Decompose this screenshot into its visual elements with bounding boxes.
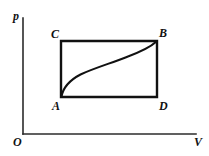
vertex-label-b: B — [159, 27, 167, 39]
pv-diagram-figure: p V O A B C D — [0, 0, 209, 156]
diagram-canvas — [0, 0, 209, 156]
process-curve-path — [62, 42, 157, 97]
vertex-label-c: C — [51, 28, 59, 40]
axis-label-volume: V — [194, 136, 202, 148]
vertex-label-d: D — [159, 100, 168, 112]
axis-label-pressure: p — [13, 10, 19, 22]
vertex-label-a: A — [52, 100, 60, 112]
axis-label-origin: O — [13, 136, 22, 148]
